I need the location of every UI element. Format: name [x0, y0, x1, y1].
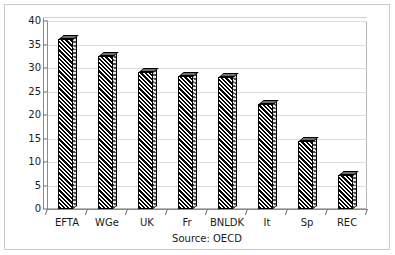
- bar: [258, 104, 273, 209]
- y-axis-tick-mark: [43, 162, 48, 163]
- x-axis-tick-label: BNLDK: [210, 218, 244, 228]
- x-axis-tick-label: EFTA: [55, 218, 79, 228]
- y-axis-tick-label: 5: [35, 181, 41, 191]
- y-axis-tick-label: 0: [35, 204, 41, 214]
- x-axis-tick-mark: [85, 209, 88, 215]
- x-axis-tick-mark: [45, 209, 48, 215]
- x-axis-tick-label: It: [264, 218, 271, 228]
- y-axis-tick-mark: [43, 21, 48, 22]
- x-axis-tick-mark: [125, 209, 128, 215]
- gridline: [47, 162, 367, 163]
- gridline: [47, 115, 367, 116]
- x-axis-tick-label: Fr: [182, 218, 191, 228]
- y-axis-tick-label: 40: [28, 16, 41, 26]
- x-axis-tick-label: REC: [337, 218, 357, 228]
- bar: [138, 72, 153, 209]
- y-axis-tick-mark: [43, 91, 48, 92]
- chart-frame: 0510152025303540 EFTAWGeUKFrBNLDKItSpREC…: [4, 4, 390, 250]
- y-axis-tick-label: 10: [28, 157, 41, 167]
- bar: [338, 175, 353, 209]
- bar-side-face: [313, 138, 317, 209]
- plot-depth-left-edge: [43, 17, 47, 209]
- y-axis-tick-mark: [43, 68, 48, 69]
- y-axis-tick-mark: [43, 44, 48, 45]
- x-axis-tick-mark: [365, 209, 368, 215]
- bar: [178, 76, 193, 209]
- x-axis-tick-label: Sp: [301, 218, 314, 228]
- bar-front-face: [138, 72, 153, 209]
- y-axis-tick-mark: [43, 138, 48, 139]
- bar-front-face: [178, 76, 193, 209]
- x-axis-tick-label: WGe: [95, 218, 119, 228]
- bar-side-face: [233, 74, 237, 209]
- x-axis-tick-mark: [165, 209, 168, 215]
- bar-side-face: [113, 53, 117, 209]
- y-axis-tick-label: 30: [28, 63, 41, 73]
- x-axis-tick-mark: [205, 209, 208, 215]
- bar: [58, 39, 73, 209]
- plot-area: 0510152025303540: [47, 21, 367, 209]
- bar-side-face: [193, 72, 197, 209]
- bar-front-face: [298, 141, 313, 209]
- bar: [298, 141, 313, 209]
- y-axis-tick-label: 25: [28, 87, 41, 97]
- bar-side-face: [353, 172, 357, 209]
- y-axis-tick-label: 35: [28, 40, 41, 50]
- bar-front-face: [98, 56, 113, 209]
- bar: [218, 77, 233, 209]
- x-axis-tick-mark: [285, 209, 288, 215]
- x-axis-tick-mark: [245, 209, 248, 215]
- gridline: [47, 68, 367, 69]
- gridline: [47, 92, 367, 93]
- bar: [98, 56, 113, 209]
- bar-front-face: [218, 77, 233, 209]
- x-axis-tick-mark: [325, 209, 328, 215]
- source-note: Source: OECD: [47, 234, 367, 244]
- bar-side-face: [73, 36, 77, 209]
- y-axis-tick-mark: [43, 185, 48, 186]
- bar-front-face: [338, 175, 353, 209]
- y-axis-tick-mark: [43, 115, 48, 116]
- bar-side-face: [273, 101, 277, 209]
- y-axis-tick-label: 20: [28, 110, 41, 120]
- gridline: [47, 21, 367, 22]
- bar-side-face: [153, 69, 157, 209]
- gridline: [47, 45, 367, 46]
- gridline: [47, 139, 367, 140]
- gridline: [47, 186, 367, 187]
- x-axis: EFTAWGeUKFrBNLDKItSpREC Source: OECD: [47, 209, 367, 255]
- bar-front-face: [58, 39, 73, 209]
- bar-front-face: [258, 104, 273, 209]
- y-axis-tick-label: 15: [28, 134, 41, 144]
- x-axis-tick-label: UK: [140, 218, 154, 228]
